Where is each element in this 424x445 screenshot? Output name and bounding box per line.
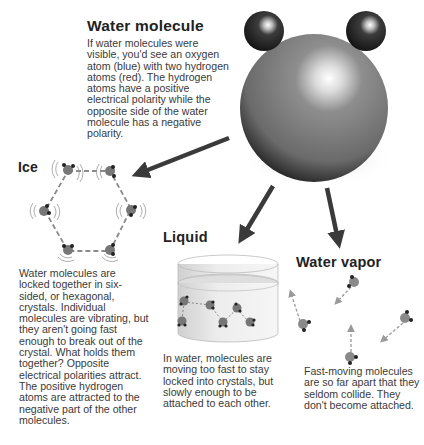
vapor-title: Water vapor [296, 254, 381, 270]
ice-crystal-illustration [30, 160, 146, 262]
liquid-beaker-illustration [177, 255, 278, 342]
hydrogen-atom-right [346, 11, 386, 51]
water-molecule-illustration [240, 11, 396, 186]
water-molecule-description: If water molecules were visible, you'd s… [87, 38, 233, 140]
liquid-title: Liquid [163, 229, 208, 245]
water-molecule-title: Water molecule [87, 17, 204, 35]
ice-title: Ice [18, 159, 38, 175]
hydrogen-atom-left [244, 11, 284, 51]
vapor-molecules-illustration [291, 275, 413, 365]
vapor-description: Fast-moving molecules are so far apart t… [304, 366, 422, 411]
ice-description: Water molecules are locked together in s… [19, 268, 149, 426]
oxygen-atom [240, 34, 388, 182]
liquid-description: In water, molecules are moving too fast … [163, 353, 283, 409]
